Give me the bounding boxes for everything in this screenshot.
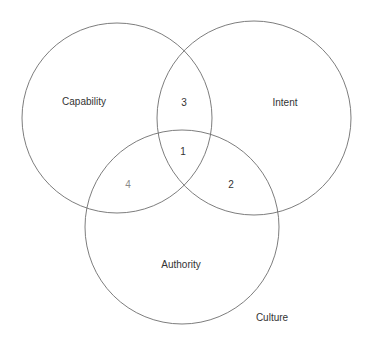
intent-circle: [157, 21, 351, 215]
capability-label: Capability: [62, 96, 106, 107]
region-4-label: 4: [125, 179, 131, 190]
region-3-label: 3: [181, 97, 187, 108]
authority-label: Authority: [161, 259, 200, 270]
culture-label: Culture: [256, 312, 289, 323]
region-2-label: 2: [228, 179, 234, 190]
authority-circle: [85, 130, 279, 324]
region-1-label: 1: [180, 146, 186, 157]
venn-diagram: Capability Intent Authority Culture 3 1 …: [0, 0, 366, 340]
intent-label: Intent: [272, 97, 297, 108]
